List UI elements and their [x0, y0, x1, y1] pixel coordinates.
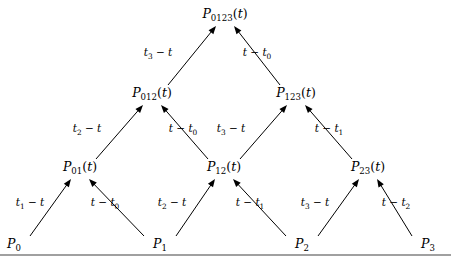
edge-P01-to-P012	[96, 110, 139, 159]
edge-P23-to-P123	[309, 110, 352, 159]
edge-P12-to-P123	[240, 110, 283, 159]
node-label-P12: P12(t)	[206, 159, 241, 176]
node-label-P2: P2	[294, 236, 309, 253]
diagram-canvas: P0P1P2P3P01(t)P12(t)P23(t)P012(t)P123(t)…	[0, 0, 451, 264]
arrowhead-P123-to-P0123	[234, 26, 241, 34]
edge-label-e-P1-P01: t − t0	[91, 196, 120, 211]
edge-label-e-P123-P0123: t − t0	[243, 46, 272, 61]
node-label-P123: P123(t)	[275, 85, 316, 102]
edge-label-e-P0-P01: t1 − t	[16, 196, 45, 211]
edge-label-e-P1-P12: t2 − t	[158, 196, 187, 211]
node-label-P0123: P0123(t)	[201, 6, 247, 23]
edge-label-e-P12-P012: t − t0	[169, 122, 198, 137]
edge-P2-to-P23	[318, 184, 355, 236]
edge-label-e-P3-P23: t − t2	[382, 196, 411, 211]
edge-label-e-P2-P12: t − t1	[236, 196, 265, 211]
edge-P012-to-P0123	[168, 31, 212, 85]
arrowhead-P3-to-P23	[377, 179, 384, 187]
edge-label-e-P2-P23: t3 − t	[301, 196, 330, 211]
edge-P1-to-P12	[176, 184, 211, 236]
edge-P0-to-P01	[30, 184, 67, 236]
node-label-P3: P3	[420, 236, 435, 253]
arrowhead-P2-to-P23	[352, 179, 359, 187]
arrowhead-P012-to-P0123	[209, 26, 216, 34]
node-label-P1: P1	[152, 236, 167, 253]
node-label-P23: P23(t)	[350, 159, 385, 176]
edge-label-e-P23-P123: t − t1	[315, 122, 344, 137]
edge-P12-to-P012	[165, 110, 208, 159]
edge-P123-to-P0123	[238, 31, 280, 85]
node-label-P012: P012(t)	[131, 85, 172, 102]
node-label-P01: P01(t)	[62, 159, 97, 176]
node-label-P0: P0	[6, 236, 21, 253]
edge-label-e-P01-P012: t2 − t	[73, 122, 102, 137]
edge-label-e-P12-P123: t3 − t	[217, 122, 246, 137]
arrowhead-P0-to-P01	[64, 179, 71, 187]
neville-pyramid-diagram: P0P1P2P3P01(t)P12(t)P23(t)P012(t)P123(t)…	[0, 0, 451, 264]
arrowhead-P1-to-P12	[208, 179, 215, 187]
edge-label-e-P012-P0123: t3 − t	[144, 46, 173, 61]
